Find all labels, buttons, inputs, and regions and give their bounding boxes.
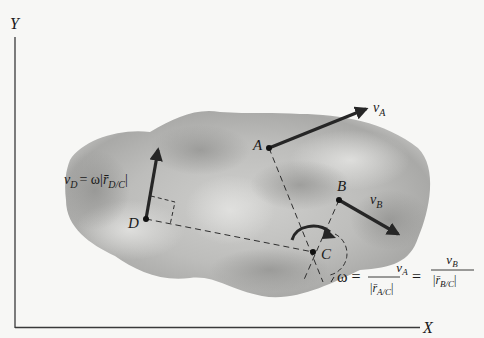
point-D	[143, 216, 149, 222]
rigid-body-instant-center-diagram: Y X	[0, 0, 484, 338]
point-A	[266, 145, 272, 151]
frac1-denominator: |r̄A/C|	[370, 281, 394, 297]
label-vA: vA	[373, 100, 386, 118]
label-D: D	[127, 215, 139, 231]
frac1-numerator: vA	[396, 260, 408, 277]
frac2-denominator: |r̄B/C|	[433, 273, 457, 289]
omega-symbol: ω =	[337, 268, 361, 285]
frac2-numerator: vB	[446, 252, 458, 269]
label-A: A	[252, 137, 263, 153]
y-axis-label: Y	[10, 15, 21, 32]
label-B: B	[337, 178, 346, 194]
point-C	[310, 249, 316, 255]
equals-sign: =	[412, 268, 421, 285]
point-B	[336, 197, 342, 203]
x-axis-label: X	[422, 319, 434, 336]
label-C: C	[321, 246, 332, 262]
